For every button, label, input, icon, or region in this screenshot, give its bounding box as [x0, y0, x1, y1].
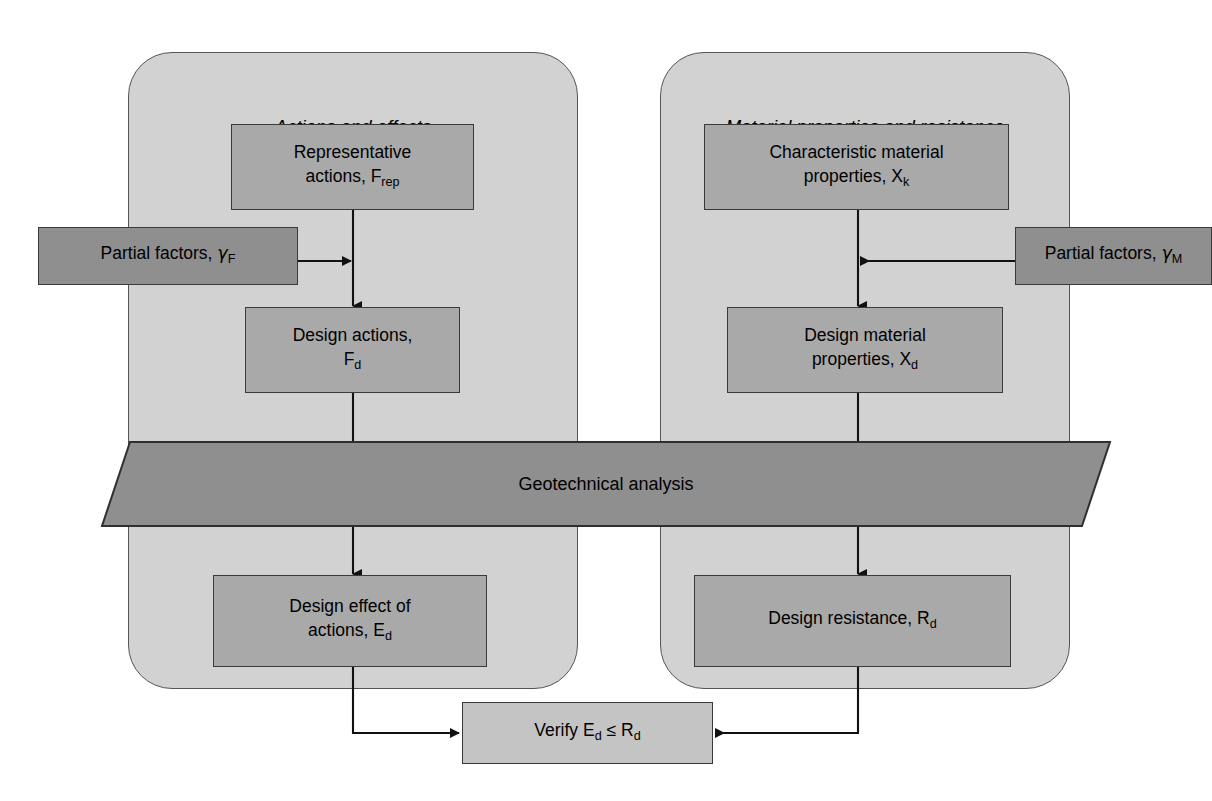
node-partial-factors-materials[interactable]: Partial factors, γM — [1015, 227, 1212, 285]
geotechnical-analysis-label: Geotechnical analysis — [100, 440, 1112, 528]
representative-actions-line1: Representative — [294, 142, 412, 162]
edge-rd-to-verify — [716, 667, 858, 733]
verify-sub2: d — [634, 729, 641, 743]
design-resistance-sub: d — [930, 617, 937, 631]
design-actions-sub: d — [354, 358, 361, 372]
characteristic-material-line2: properties, X — [804, 166, 903, 186]
node-design-actions[interactable]: Design actions, Fd — [245, 307, 460, 393]
gamma-symbol-m: γ — [1161, 243, 1171, 263]
node-design-effect-of-actions[interactable]: Design effect of actions, Ed — [213, 575, 487, 667]
flowchart-diagram: Actions and effects Material properties … — [0, 0, 1212, 801]
node-verify-ed-le-rd[interactable]: Verify Ed ≤ Rd — [462, 702, 713, 764]
representative-actions-line2: actions, F — [305, 166, 381, 186]
design-effect-sub: d — [385, 629, 392, 643]
characteristic-material-line1: Characteristic material — [769, 142, 943, 162]
characteristic-material-sub: k — [903, 175, 909, 189]
partial-factors-m-sub: M — [1172, 252, 1183, 266]
node-representative-actions[interactable]: Representative actions, Frep — [231, 124, 474, 210]
connector-lines — [0, 0, 1212, 801]
design-material-line2: properties, X — [812, 349, 911, 369]
edge-ed-to-verify — [353, 667, 459, 733]
design-material-sub: d — [911, 358, 918, 372]
node-characteristic-material-properties[interactable]: Characteristic material properties, Xk — [704, 124, 1009, 210]
geotechnical-analysis-shape: Geotechnical analysis — [100, 440, 1112, 528]
verify-pre: Verify E — [534, 720, 594, 740]
gamma-symbol-f: γ — [217, 243, 227, 263]
representative-actions-sub: rep — [381, 175, 399, 189]
node-design-resistance[interactable]: Design resistance, Rd — [694, 575, 1011, 667]
design-actions-line2: F — [344, 349, 355, 369]
node-partial-factors-actions[interactable]: Partial factors, γF — [38, 227, 298, 285]
design-actions-line1: Design actions, — [293, 325, 413, 345]
partial-factors-m-text: Partial factors, — [1045, 243, 1162, 263]
design-effect-line1: Design effect of — [289, 596, 410, 616]
partial-factors-f-text: Partial factors, — [101, 243, 218, 263]
design-effect-line2: actions, E — [308, 620, 385, 640]
verify-sub1: d — [595, 729, 602, 743]
design-resistance-text: Design resistance, R — [768, 608, 929, 628]
verify-mid: ≤ R — [602, 720, 634, 740]
partial-factors-f-sub: F — [228, 252, 236, 266]
design-material-line1: Design material — [804, 325, 926, 345]
node-design-material-properties[interactable]: Design material properties, Xd — [727, 307, 1003, 393]
